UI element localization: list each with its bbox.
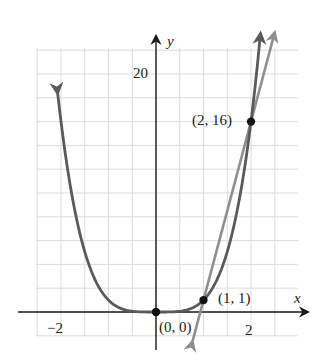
- tick-label-x-2: 2: [245, 322, 253, 338]
- x-axis-label: x: [293, 290, 301, 306]
- y-axis-label: y: [165, 33, 174, 49]
- curve-x-fourth: [58, 33, 261, 312]
- tick-label-x-neg2: −2: [47, 320, 63, 336]
- point-label-1-1: (1, 1): [218, 290, 251, 307]
- chart: x y −2 2 20 (0, 0) (1, 1) (2, 16): [0, 0, 315, 362]
- data-point: [152, 308, 160, 316]
- data-point: [199, 296, 207, 304]
- point-label-origin: (0, 0): [159, 319, 192, 336]
- point-label-2-16: (2, 16): [192, 112, 232, 129]
- tick-label-y-20: 20: [133, 65, 148, 81]
- data-point: [247, 117, 255, 125]
